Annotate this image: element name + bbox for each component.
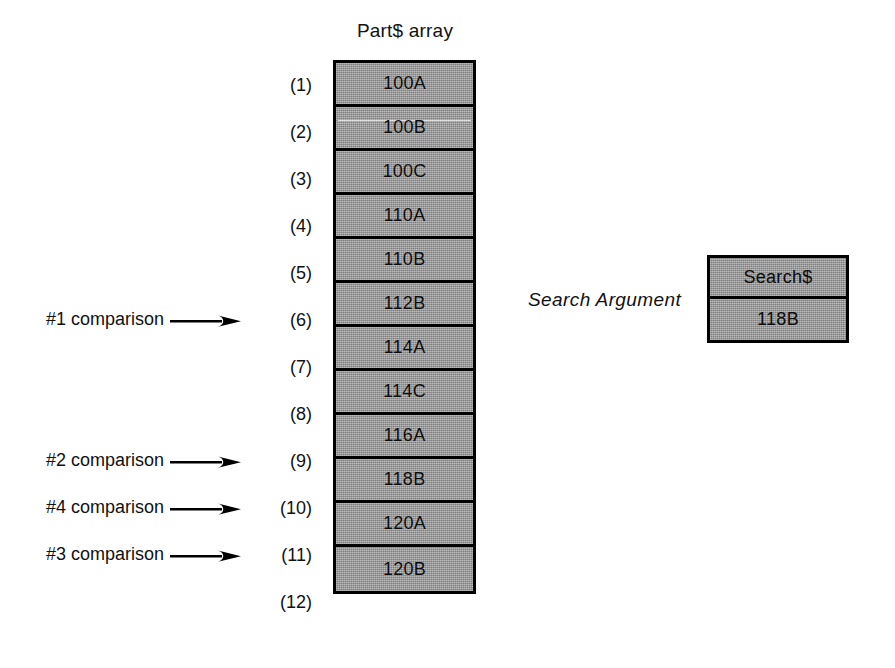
comparison-label: #3 comparison xyxy=(46,544,164,565)
array-index-label: (6) xyxy=(240,310,312,331)
comparison-label: #4 comparison xyxy=(46,497,164,518)
search-variable-value: 118B xyxy=(710,299,846,340)
array-cell-value: 114C xyxy=(383,381,426,402)
array-index-label: (5) xyxy=(240,263,312,284)
array-cell-value: 110A xyxy=(384,205,426,226)
array-cell: 120A xyxy=(336,503,473,547)
search-argument-label: Search Argument xyxy=(528,289,681,311)
array-cell: 100C xyxy=(336,151,473,195)
array-index-label: (2) xyxy=(240,122,312,143)
array-cell-value: 120A xyxy=(383,513,426,534)
right-arrow-icon xyxy=(170,548,242,560)
array-cell-value: 120B xyxy=(383,559,426,580)
array-cell: 100B xyxy=(336,107,473,151)
array-index-label: (10) xyxy=(240,498,312,519)
comparison-annotation: #1 comparison xyxy=(46,308,242,330)
array-index-label: (8) xyxy=(240,404,312,425)
array-cell: 116A xyxy=(336,415,473,459)
comparison-annotation: #4 comparison xyxy=(46,496,242,518)
array-cell-value: 112B xyxy=(384,293,426,314)
comparison-label: #2 comparison xyxy=(46,450,164,471)
binary-search-diagram: Part$ array (1) (2) (3) (4) (5) (6) (7) … xyxy=(0,0,895,668)
array-cell: 118B xyxy=(336,459,473,503)
array-index-label: (11) xyxy=(240,545,312,566)
array-cell: 114A xyxy=(336,327,473,371)
array-cell-value: 114A xyxy=(384,337,426,358)
right-arrow-icon xyxy=(170,501,242,513)
array-cell: 120B xyxy=(336,547,473,591)
array-cell-value: 116A xyxy=(384,425,426,446)
array-index-label: (9) xyxy=(240,451,312,472)
array-cell: 100A xyxy=(336,63,473,107)
right-arrow-icon xyxy=(170,454,242,466)
array-cell-value: 118B xyxy=(384,469,426,490)
array-cell: 114C xyxy=(336,371,473,415)
comparison-annotation: #2 comparison xyxy=(46,449,242,471)
array-cell: 110B xyxy=(336,239,473,283)
comparison-label: #1 comparison xyxy=(46,309,164,330)
search-variable-name: Search$ xyxy=(710,258,846,299)
array-cell-value: 100C xyxy=(382,161,426,182)
array-cell: 110A xyxy=(336,195,473,239)
search-argument-box: Search$ 118B xyxy=(707,255,849,343)
right-arrow-icon xyxy=(170,313,242,325)
array-cell-value: 110B xyxy=(384,249,426,270)
comparison-annotation: #3 comparison xyxy=(46,543,242,565)
array-cell: 112B xyxy=(336,283,473,327)
array-title: Part$ array xyxy=(334,20,476,42)
array-cell-value: 100B xyxy=(383,117,426,138)
part-array: 100A 100B 100C 110A 110B 112B 114A 114C … xyxy=(333,60,476,594)
array-index-label: (12) xyxy=(240,592,312,613)
array-index-label: (4) xyxy=(240,216,312,237)
array-index-label: (1) xyxy=(240,75,312,96)
array-index-label: (3) xyxy=(240,169,312,190)
array-cell-value: 100A xyxy=(383,73,426,94)
array-index-label: (7) xyxy=(240,357,312,378)
